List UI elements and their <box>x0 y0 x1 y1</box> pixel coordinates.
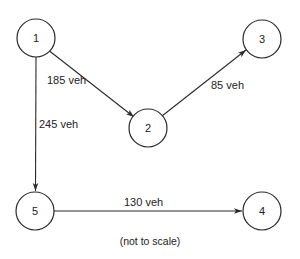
caption-not-to-scale: (not to scale) <box>120 235 181 247</box>
node-label: 3 <box>259 33 265 45</box>
node-label: 2 <box>145 122 151 134</box>
edge-label-1-5: 245 veh <box>39 118 78 130</box>
node-3: 3 <box>243 20 281 58</box>
node-5: 5 <box>16 192 54 230</box>
network-diagram: 185 veh 85 veh 245 veh 130 veh 1 2 3 4 5… <box>0 0 300 259</box>
node-1: 1 <box>17 19 55 57</box>
edge-label-1-2: 185 veh <box>47 74 86 86</box>
node-label: 5 <box>32 205 38 217</box>
node-label: 1 <box>33 32 39 44</box>
edge-label-2-3: 85 veh <box>211 79 244 91</box>
edge-1-to-5 <box>36 57 37 191</box>
node-label: 4 <box>259 205 265 217</box>
node-2: 2 <box>129 109 167 147</box>
node-4: 4 <box>243 192 281 230</box>
diagram-svg: 185 veh 85 veh 245 veh 130 veh 1 2 3 4 5… <box>0 0 300 259</box>
edge-label-5-4: 130 veh <box>124 196 163 208</box>
